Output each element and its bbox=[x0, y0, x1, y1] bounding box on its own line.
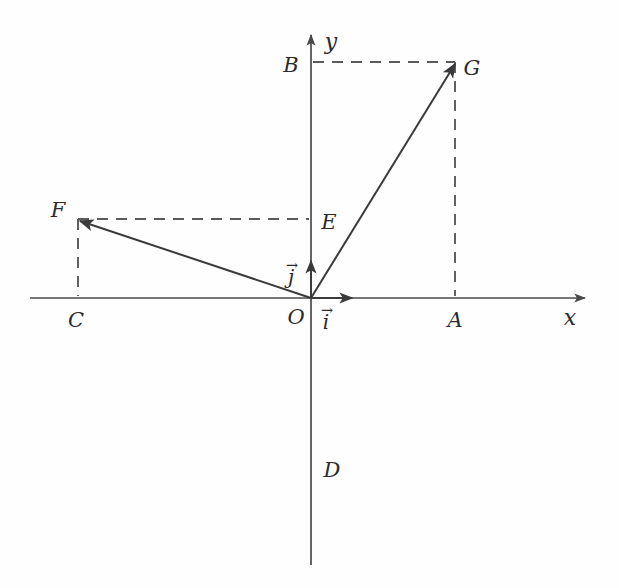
projection-lines bbox=[78, 62, 455, 296]
y-axis-label: y bbox=[325, 31, 337, 53]
point-label-d: D bbox=[324, 460, 341, 481]
point-label-c: C bbox=[68, 310, 84, 331]
vector-accent-icon: → bbox=[321, 303, 333, 317]
vector-og bbox=[311, 64, 455, 298]
point-label-f: F bbox=[51, 200, 66, 221]
vector-accent-icon: → bbox=[286, 258, 298, 272]
point-label-g: G bbox=[464, 58, 481, 79]
position-vectors bbox=[80, 64, 455, 298]
point-label-b: B bbox=[283, 55, 298, 76]
origin-label: O bbox=[287, 307, 304, 328]
unit-vector-i-label: →i bbox=[323, 312, 329, 332]
vector-diagram-figure: A B C D E F G O x y →i →j bbox=[0, 0, 619, 588]
diagram-canvas bbox=[0, 0, 619, 588]
point-label-e: E bbox=[321, 212, 336, 233]
point-label-a: A bbox=[447, 310, 462, 331]
unit-vector-j-label: →j bbox=[288, 267, 294, 287]
vector-of bbox=[80, 221, 311, 298]
x-axis-label: x bbox=[564, 307, 576, 329]
axes bbox=[30, 35, 585, 565]
